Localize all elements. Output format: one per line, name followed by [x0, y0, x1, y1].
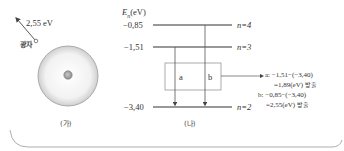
photon-circle — [34, 39, 38, 43]
frame-border — [10, 130, 342, 147]
level-n2-label: n=2 — [237, 103, 251, 112]
transition-b-label: b — [208, 73, 212, 82]
nucleus — [64, 71, 72, 79]
energy-axis-label: En(eV) — [122, 8, 146, 19]
annotation-a-line2: =1,89(eV) 방출 — [274, 82, 317, 89]
level-n4-energy: −0,85 — [123, 21, 143, 30]
annotation-b-line2: =2,55(eV) 방출 — [266, 102, 309, 109]
transition-box — [165, 63, 221, 90]
level-n2-energy: −3,40 — [124, 103, 144, 112]
transition-a-label: a — [179, 73, 183, 82]
level-n3-energy: −1,51 — [124, 43, 144, 52]
atom-figure — [38, 46, 98, 106]
photon-label: 광자 — [20, 42, 32, 49]
level-n3-label: n=3 — [237, 43, 251, 52]
energy-level-diagram — [153, 25, 262, 107]
caption-ga: (가) — [60, 121, 71, 128]
level-n4-label: n=4 — [237, 21, 251, 30]
annotation-b-line1: b: −0,85−(−3,40) — [258, 92, 306, 99]
caption-na: (나) — [184, 121, 195, 128]
photon-energy-label: 2,55 eV — [26, 19, 53, 28]
annotation-a-line1: a: −1,51−(−3,40) — [265, 72, 313, 79]
